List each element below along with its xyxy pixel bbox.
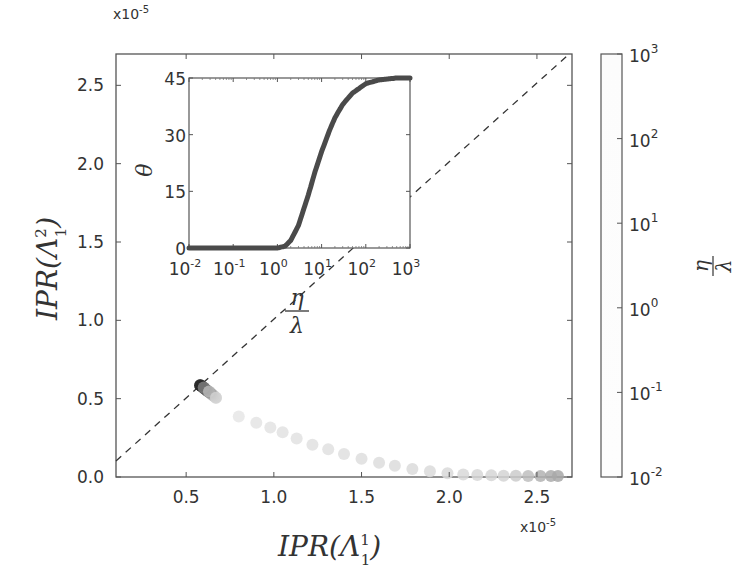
- x-tick-label: 1.5: [348, 487, 375, 507]
- inset-y-label: θ: [132, 163, 157, 176]
- colorbar-tick-label: 10-1: [629, 380, 663, 404]
- scatter-point: [406, 463, 418, 475]
- scatter-point: [356, 453, 368, 465]
- y-tick-label: 2.0: [77, 154, 104, 174]
- svg-text:η: η: [689, 260, 713, 272]
- colorbar-label: η λ: [689, 256, 736, 276]
- scatter-point: [457, 468, 469, 480]
- y-tick-label: 1.0: [77, 310, 104, 330]
- scatter-point: [471, 469, 483, 481]
- scatter-point: [485, 469, 497, 481]
- scatter-point: [322, 443, 334, 455]
- y-axis-label: IPR(Λ21): [31, 217, 70, 321]
- scatter-point: [373, 457, 385, 469]
- colorbar-tick-label: 102: [629, 127, 658, 151]
- colorbar-ticks: 10310210110010-110-2: [617, 42, 663, 489]
- svg-text:η: η: [290, 285, 303, 310]
- colorbar-bar: [601, 54, 622, 477]
- scatter-point: [552, 470, 564, 482]
- colorbar-tick-label: 100: [629, 296, 658, 320]
- x-tick-label: 0.5: [173, 487, 200, 507]
- scatter-point: [534, 470, 546, 482]
- x-axis-multiplier: x10-5: [520, 517, 556, 535]
- scatter-point: [264, 421, 276, 433]
- scatter-point: [389, 460, 401, 472]
- scatter-point: [522, 470, 534, 482]
- x-tick-label: 1.0: [260, 487, 287, 507]
- x-tick-label: 2.5: [523, 487, 550, 507]
- x-tick-label: 2.0: [436, 487, 463, 507]
- scatter-point: [210, 392, 222, 404]
- y-tick-label: 0.5: [77, 389, 104, 409]
- x-axis-label: IPR(Λ11): [277, 530, 381, 569]
- scatter-point: [424, 465, 436, 477]
- y-tick-label: 1.5: [77, 232, 104, 252]
- y-tick-label: 0.0: [77, 467, 104, 487]
- scatter-point: [277, 426, 289, 438]
- scatter-point: [510, 470, 522, 482]
- colorbar-tick-label: 10-2: [629, 465, 663, 489]
- scatter-point: [250, 417, 262, 429]
- inset-y-tick-label: 30: [164, 126, 186, 146]
- y-axis-multiplier: x10-5: [113, 4, 149, 22]
- colorbar: 10310210110010-110-2 η λ: [601, 42, 736, 489]
- scatter-point: [338, 448, 350, 460]
- scatter-point: [291, 432, 303, 444]
- scatter-point: [233, 410, 245, 422]
- figure: 0.51.01.52.02.5 0.00.51.01.52.02.5 x10-5…: [0, 0, 739, 581]
- inset-y-tick-label: 0: [175, 239, 186, 259]
- inset-y-tick-label: 45: [164, 69, 186, 89]
- svg-text:λ: λ: [712, 260, 736, 274]
- y-tick-label: 2.5: [77, 75, 104, 95]
- scatter-point: [498, 470, 510, 482]
- colorbar-tick-label: 101: [629, 211, 658, 235]
- svg-text:λ: λ: [289, 313, 304, 338]
- scatter-point: [441, 467, 453, 479]
- inset-y-tick-label: 15: [164, 182, 186, 202]
- scatter-point: [306, 439, 318, 451]
- colorbar-tick-label: 103: [629, 42, 658, 66]
